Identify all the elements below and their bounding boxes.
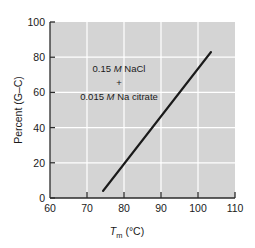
x-tick-label-60: 60 xyxy=(44,202,56,214)
svg-text:Tm (°C): Tm (°C) xyxy=(110,225,144,240)
y-axis-title: Percent (G–C) xyxy=(12,76,24,144)
x-tick-label-110: 110 xyxy=(227,202,244,214)
percent-gc-vs-tm-line-chart: 100 80 60 40 20 0 60 70 80 90 100 110 Pe… xyxy=(0,0,255,248)
plot-background xyxy=(50,22,235,198)
annotation-plus-sign: + xyxy=(116,77,122,88)
svg-text:0.15 M NaCl: 0.15 M NaCl xyxy=(93,63,146,74)
x-tick-label-100: 100 xyxy=(189,202,207,214)
y-tick-label-80: 80 xyxy=(33,51,45,63)
svg-text:0.015 M Na citrate: 0.015 M Na citrate xyxy=(80,91,158,102)
x-axis-title-units: (°C) xyxy=(125,225,144,237)
y-tick-label-100: 100 xyxy=(27,16,45,28)
y-tick-label-40: 40 xyxy=(33,122,45,134)
annotation-line1-molar: M xyxy=(114,63,122,74)
y-tick-label-20: 20 xyxy=(33,157,45,169)
x-tick-label-70: 70 xyxy=(81,202,93,214)
annotation-line3-molar: M xyxy=(107,91,115,102)
annotation-line1-prefix: 0.15 xyxy=(93,63,112,74)
annotation-line3-prefix: 0.015 xyxy=(80,91,104,102)
annotation-line3-suffix: Na citrate xyxy=(117,91,158,102)
y-tick-label-60: 60 xyxy=(33,86,45,98)
x-axis-title: Tm (°C) xyxy=(110,225,144,240)
x-tick-label-90: 90 xyxy=(155,202,167,214)
annotation-line1-suffix: NaCl xyxy=(124,63,145,74)
chart-figure: 100 80 60 40 20 0 60 70 80 90 100 110 Pe… xyxy=(0,0,255,248)
x-tick-label-80: 80 xyxy=(118,202,130,214)
